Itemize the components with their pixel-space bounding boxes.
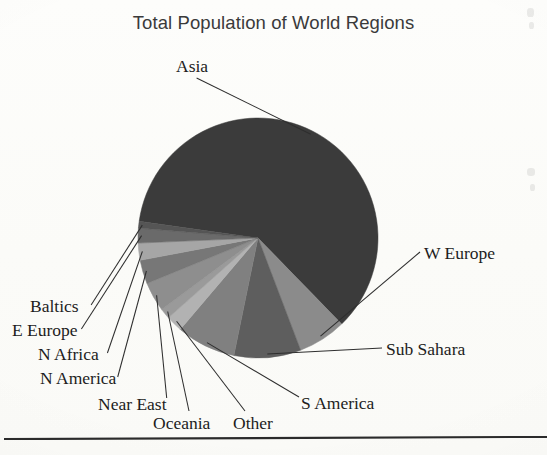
slice-label-n-africa: N Africa bbox=[38, 346, 99, 364]
slice-label-oceania: Oceania bbox=[153, 415, 210, 433]
slice-label-n-america: N America bbox=[40, 370, 116, 388]
leader-line bbox=[81, 236, 141, 329]
scanned-chart-page: Total Population of World Regions AsiaW … bbox=[0, 0, 547, 455]
slice-label-w-europe: W Europe bbox=[424, 245, 495, 263]
leader-line bbox=[107, 251, 142, 353]
leader-line bbox=[91, 225, 142, 305]
slice-label-e-europe: E Europe bbox=[12, 322, 78, 340]
slice-label-asia: Asia bbox=[176, 58, 208, 76]
leader-line bbox=[118, 271, 147, 377]
pie-slice-group bbox=[138, 118, 378, 358]
bottom-horizontal-rule bbox=[4, 436, 547, 440]
slice-label-s-america: S America bbox=[301, 395, 374, 413]
slice-label-near-east: Near East bbox=[98, 396, 167, 414]
slice-label-sub-sahara: Sub Sahara bbox=[386, 341, 465, 359]
slice-label-other: Other bbox=[233, 415, 273, 433]
slice-label-baltics: Baltics bbox=[30, 298, 79, 316]
